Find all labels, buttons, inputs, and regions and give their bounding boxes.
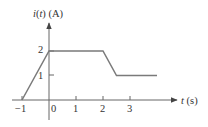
x-tick-label: 3 bbox=[127, 103, 132, 114]
y-tick-label: 1 bbox=[38, 70, 43, 81]
x-ticks bbox=[22, 96, 130, 100]
x-tick-label: 1 bbox=[73, 103, 78, 114]
x-tick-label: 2 bbox=[100, 103, 105, 114]
x-tick-label: 0 bbox=[51, 103, 56, 114]
y-axis-title: i(t) (A) bbox=[33, 8, 64, 20]
x-axis-title: t (s) bbox=[181, 95, 198, 107]
y-tick-label: 2 bbox=[38, 44, 43, 55]
x-tick-label: −1 bbox=[15, 103, 26, 114]
y-ticks bbox=[49, 51, 54, 75]
waveform-chart: −1 0 1 2 3 1 2 i(t) (A) t (s) bbox=[0, 0, 208, 127]
